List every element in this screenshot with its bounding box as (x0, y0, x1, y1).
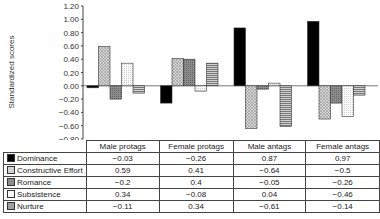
y-axis-label: Standardized scores (7, 36, 16, 109)
table-row: Romance −0.2 0.4 −0.05 −0.26 (4, 177, 380, 189)
data-table: Male protags Female protags Male antags … (3, 140, 380, 213)
bar-subsistence (195, 86, 207, 91)
table-row: Nurture −0.11 0.34 −0.61 −0.14 (4, 201, 380, 213)
bar-nurture (280, 86, 292, 127)
legend-label: Nurture (4, 201, 87, 213)
bar-romance (110, 86, 122, 99)
bar-dominance (87, 86, 99, 88)
bar-subsistence (342, 86, 354, 117)
bar-romance (184, 59, 196, 86)
bar-nurture (133, 86, 145, 93)
y-tick-label: −0.60 (59, 122, 80, 131)
bar-constructive-effort (99, 47, 111, 86)
legend-label: Romance (4, 177, 87, 189)
y-tick-label: 1.20 (63, 2, 79, 11)
bar-nurture (354, 86, 366, 95)
col-header: Female protags (159, 141, 233, 153)
legend-label: Constructive Effort (4, 165, 87, 177)
bar-subsistence (122, 63, 134, 86)
col-header: Male protags (86, 141, 159, 153)
legend-swatch-icon (7, 178, 15, 186)
bar-dominance (161, 86, 173, 103)
bar-romance (331, 86, 343, 103)
bar-dominance (308, 21, 320, 86)
col-header: Male antags (233, 141, 306, 153)
y-tick-label: −0.20 (59, 95, 80, 104)
y-tick-label: −0.40 (59, 108, 80, 117)
y-tick-label: 0.60 (63, 42, 79, 51)
bar-subsistence (269, 83, 281, 86)
y-tick-label: 0.20 (63, 69, 79, 78)
table-row: Subsistence 0.34 −0.08 0.04 −0.46 (4, 189, 380, 201)
col-header: Female antags (306, 141, 380, 153)
table-row: Constructive Effort 0.59 0.41 −0.64 −0.5 (4, 165, 380, 177)
legend-label: Subsistence (4, 189, 87, 201)
bar-chart: 1.201.000.800.600.400.200.00−0.20−0.40−0… (0, 0, 380, 140)
y-tick-label: 1.00 (63, 15, 79, 24)
legend-swatch-icon (7, 154, 15, 162)
y-tick-label: 0.40 (63, 55, 79, 64)
bar-romance (257, 86, 269, 89)
bar-constructive-effort (246, 86, 258, 129)
table-row: Dominance −0.03 −0.26 0.87 0.97 (4, 153, 380, 165)
bar-nurture (207, 63, 219, 86)
legend-swatch-icon (7, 166, 15, 174)
y-tick-label: 0.00 (63, 82, 79, 91)
legend-swatch-icon (7, 202, 15, 210)
bar-constructive-effort (172, 59, 184, 86)
bars (87, 21, 365, 128)
bar-constructive-effort (319, 86, 331, 119)
y-tick-label: 0.80 (63, 29, 79, 38)
table-header-row: Male protags Female protags Male antags … (4, 141, 380, 153)
legend-label: Dominance (4, 153, 87, 165)
legend-swatch-icon (7, 190, 15, 198)
bar-dominance (234, 28, 246, 86)
